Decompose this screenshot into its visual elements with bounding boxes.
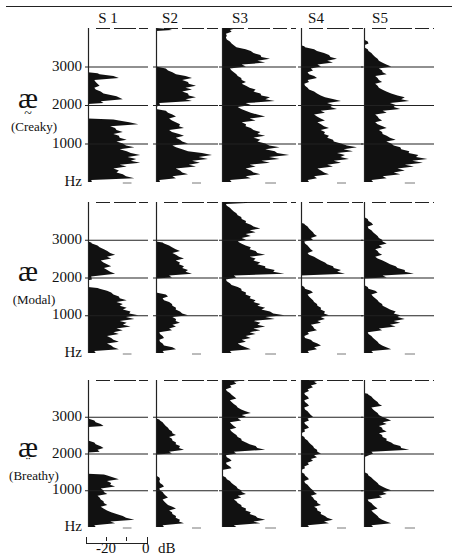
y-tick-label: Hz [22, 173, 82, 190]
speaker-label-5: S5 [360, 10, 400, 27]
spectrum-creaky-s4 [301, 28, 365, 184]
speaker-label-2: S2 [150, 10, 190, 27]
spectrum-creaky-s1 [88, 28, 150, 184]
y-tick-label: 1000 [22, 481, 82, 498]
y-tick-label: 1000 [22, 135, 82, 152]
vowel-diacritic: ¨ [8, 458, 48, 468]
spectrum-modal-s3 [222, 202, 298, 355]
spectrum-breathy-s4 [301, 380, 365, 529]
phonation-label: (Modal) [0, 292, 74, 308]
speaker-label-3: S3 [220, 10, 260, 27]
spectrum-creaky-s5 [364, 28, 436, 184]
speaker-label-4: S4 [296, 10, 336, 27]
spectrum-modal-s1 [88, 202, 150, 355]
vowel-symbol: æ¨ [8, 432, 48, 462]
db-unit-label: dB [158, 540, 176, 557]
y-tick-label: 1000 [22, 306, 82, 323]
phonation-label: (Creaky) [0, 119, 74, 135]
vowel-symbol: æ~ [8, 83, 48, 113]
y-tick-label: 3000 [22, 408, 82, 425]
db-tick-label-0: 0 [142, 540, 150, 557]
vowel-symbol: æ [8, 256, 48, 286]
db-scale-tick [126, 537, 127, 541]
spectrum-breathy-s1 [88, 380, 150, 529]
spectrum-creaky-s2 [156, 28, 220, 184]
spectrum-breathy-s5 [364, 380, 436, 529]
y-tick-label: 3000 [22, 58, 82, 75]
spectrum-breathy-s2 [156, 380, 220, 529]
y-tick-label: Hz [22, 518, 82, 535]
y-tick-label: Hz [22, 344, 82, 361]
spectrum-modal-s4 [301, 202, 365, 355]
db-tick-label-minus20: -20 [96, 540, 116, 557]
spectrum-creaky-s3 [222, 28, 298, 184]
spectrum-modal-s5 [364, 202, 436, 355]
vowel-diacritic: ~ [8, 109, 48, 119]
phonation-label: (Breathy) [0, 468, 74, 484]
spectrum-breathy-s3 [222, 380, 298, 529]
y-tick-label: 3000 [22, 231, 82, 248]
speaker-label-1: S 1 [88, 10, 128, 27]
spectrum-modal-s2 [156, 202, 220, 355]
top-rule [6, 6, 452, 7]
vowel-glyph: æ [18, 254, 38, 287]
